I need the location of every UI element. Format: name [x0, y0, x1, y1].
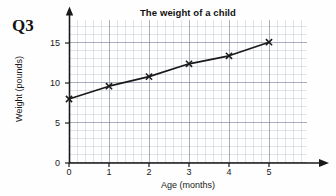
x-tick-label-1: 1: [99, 167, 119, 177]
x-axis-title: Age (months): [69, 180, 307, 190]
x-axis-arrowhead: [319, 159, 329, 167]
x-tick-label-2: 2: [139, 167, 159, 177]
y-axis-arrowhead: [66, 7, 73, 16]
x-tick-label-5: 5: [259, 167, 279, 177]
x-tick-label-3: 3: [179, 167, 199, 177]
x-tick-label-4: 4: [219, 167, 239, 177]
y-tick-label-0: 0: [38, 158, 60, 168]
y-axis-title: Weight (pounds): [14, 34, 24, 144]
x-tick-label-0: 0: [59, 167, 79, 177]
y-tick-label-10: 10: [38, 78, 60, 88]
y-tick-label-15: 15: [38, 38, 60, 48]
y-tick-label-5: 5: [38, 118, 60, 128]
line-chart: The weight of a child: [0, 0, 336, 196]
y-axis-ticks: [65, 43, 69, 163]
series-line-weight: [69, 42, 269, 99]
worksheet-page: Q3 The weight of a child: [0, 0, 336, 196]
